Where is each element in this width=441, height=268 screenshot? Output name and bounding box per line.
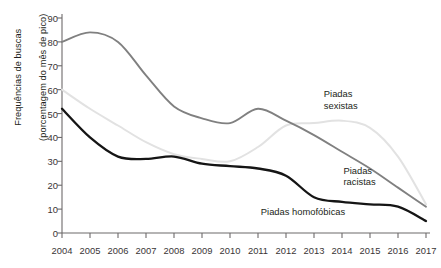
series-label-piadas-racistas: Piadasracistas [343, 165, 375, 188]
series-label-piadas-sexistas: Piadassexistas [324, 88, 358, 111]
search-frequency-line-chart: Frequências de buscas (porcentagem do mê… [0, 0, 441, 268]
plot-area [0, 0, 441, 268]
series-label-piadas-homofbicas: Piadas homofóbicas [261, 206, 345, 218]
